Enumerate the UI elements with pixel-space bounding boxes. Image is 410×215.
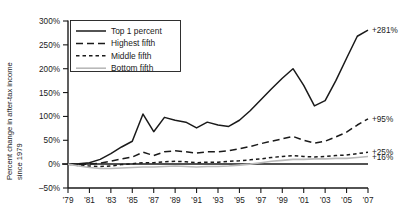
end-label-3: +16% [372,153,393,162]
y-axis-ticks: 300%250%200%150%100%50%0%–50% [39,17,68,193]
x-tick-label: ’85 [127,196,138,205]
y-axis-title: Percent change in after-tax income since… [5,62,24,180]
x-tick-label: ’89 [170,196,181,205]
y-tick-label: 300% [39,17,60,26]
y-tick-label: 200% [39,65,60,74]
x-tick-label: ’79 [63,196,74,205]
x-tick-label: ’99 [277,196,288,205]
x-tick-label: ’87 [148,196,159,205]
y-tick-label: 0% [48,160,60,169]
y-tick-label: 150% [39,89,60,98]
legend: Top 1 percentHighest fifthMiddle fifthBo… [71,21,181,74]
y-tick-label: –50% [39,184,60,193]
series-end-labels: +281%+95%+25%+16% [372,26,398,161]
x-tick-label: ’07 [363,196,374,205]
x-tick-label: ’97 [255,196,266,205]
y-tick-label: 100% [39,112,60,121]
x-tick-label: ’81 [84,196,95,205]
legend-label-2: Middle fifth [111,51,152,61]
legend-label-3: Bottom fifth [111,63,154,73]
end-label-0: +281% [372,26,398,35]
x-tick-label: ’95 [234,196,245,205]
legend-label-0: Top 1 percent [111,26,162,36]
end-label-1: +95% [372,115,393,124]
legend-label-1: Highest fifth [111,38,156,48]
x-tick-label: ’93 [213,196,224,205]
y-axis-title-line2: since 1979 [15,143,24,180]
x-tick-label: ’83 [105,196,116,205]
x-tick-label: ’91 [191,196,202,205]
x-axis-ticks: ’79’81’83’85’87’89’91’93’95’97’99’01’03’… [63,188,374,205]
y-tick-label: 50% [44,136,60,145]
x-tick-label: ’03 [320,196,331,205]
y-axis-title-line1: Percent change in after-tax income [5,62,14,180]
x-tick-label: ’05 [341,196,352,205]
income-change-line-chart: Percent change in after-tax income since… [0,0,410,215]
y-tick-label: 250% [39,41,60,50]
x-tick-label: ’01 [298,196,309,205]
chart-container: Percent change in after-tax income since… [0,0,410,215]
